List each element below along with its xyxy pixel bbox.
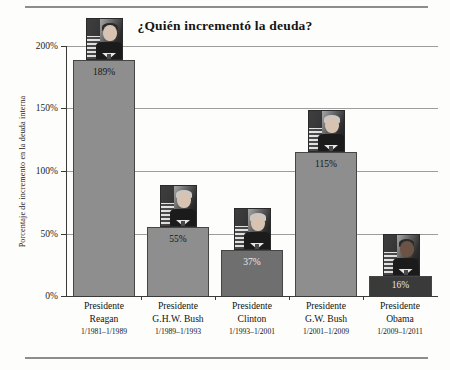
x-label-reagan: Presidente Reagan 1/1981–1/1989 — [63, 300, 145, 337]
x-label-obama-line2: Obama — [359, 313, 441, 326]
portrait-gw-bush-icon — [308, 110, 345, 152]
bar-reagan[interactable]: 189% — [73, 60, 135, 296]
y-tick-label-150: 150% — [36, 103, 58, 113]
y-tick-0 — [61, 296, 67, 297]
y-axis-title: Porcentaje de incremento en la deuda int… — [16, 46, 30, 297]
bar-slot-obama: 16% — [363, 46, 438, 296]
x-label-obama: Presidente Obama 1/2009–1/2011 — [359, 300, 441, 337]
y-tick-label-50: 50% — [41, 229, 58, 239]
page-rule-bottom — [25, 357, 428, 359]
portrait-reagan-icon — [86, 18, 123, 60]
bar-slot-reagan: 189% — [67, 46, 141, 296]
bar-value-ghw-bush: 55% — [148, 234, 208, 244]
bar-slot-ghw-bush: 55% — [141, 46, 215, 296]
x-label-obama-line1: Presidente — [359, 300, 441, 313]
x-label-ghw-bush-line2: G.H.W. Bush — [137, 313, 219, 326]
y-tick-label-100: 100% — [36, 166, 58, 176]
portrait-obama-icon — [383, 234, 420, 276]
portrait-ghw-bush-icon — [160, 185, 197, 227]
x-label-obama-dates: 1/2009–1/2011 — [359, 327, 441, 337]
x-label-clinton-line1: Presidente — [211, 300, 293, 313]
page-rule-top — [25, 6, 428, 8]
plot-area: 200% 150% 100% 50% 0% 189% — [66, 46, 438, 297]
bar-value-obama: 16% — [370, 280, 431, 290]
x-axis-line — [66, 296, 438, 297]
x-label-reagan-dates: 1/1981–1/1989 — [63, 327, 145, 337]
portrait-clinton-icon — [234, 208, 271, 250]
bar-value-reagan: 189% — [74, 67, 134, 77]
bar-value-clinton: 37% — [222, 257, 282, 267]
y-axis-title-text: Porcentaje de incremento en la deuda int… — [19, 96, 28, 248]
x-label-gw-bush: Presidente G.W. Bush 1/2001–1/2009 — [285, 300, 367, 337]
bar-clinton[interactable]: 37% — [221, 250, 283, 296]
x-label-gw-bush-dates: 1/2001–1/2009 — [285, 327, 367, 337]
bar-ghw-bush[interactable]: 55% — [147, 227, 209, 296]
x-label-reagan-line1: Presidente — [63, 300, 145, 313]
x-label-clinton: Presidente Clinton 1/1993–1/2001 — [211, 300, 293, 337]
x-label-gw-bush-line2: G.W. Bush — [285, 313, 367, 326]
y-tick-label-200: 200% — [36, 41, 58, 51]
bar-series: 189% 55% — [67, 46, 438, 296]
chart-title: ¿Quién incrementó la deuda? — [0, 18, 450, 34]
x-label-ghw-bush: Presidente G.H.W. Bush 1/1989–1/1993 — [137, 300, 219, 337]
bar-slot-clinton: 37% — [215, 46, 289, 296]
bar-slot-gw-bush: 115% — [289, 46, 363, 296]
y-tick-label-0: 0% — [45, 291, 58, 301]
x-label-clinton-dates: 1/1993–1/2001 — [211, 327, 293, 337]
bar-obama[interactable]: 16% — [369, 276, 432, 296]
x-label-ghw-bush-line1: Presidente — [137, 300, 219, 313]
x-axis-labels: Presidente Reagan 1/1981–1/1989 Presiden… — [67, 300, 438, 352]
x-label-gw-bush-line1: Presidente — [285, 300, 367, 313]
bar-value-gw-bush: 115% — [296, 159, 356, 169]
bar-gw-bush[interactable]: 115% — [295, 152, 357, 296]
x-label-clinton-line2: Clinton — [211, 313, 293, 326]
x-label-ghw-bush-dates: 1/1989–1/1993 — [137, 327, 219, 337]
x-label-reagan-line2: Reagan — [63, 313, 145, 326]
